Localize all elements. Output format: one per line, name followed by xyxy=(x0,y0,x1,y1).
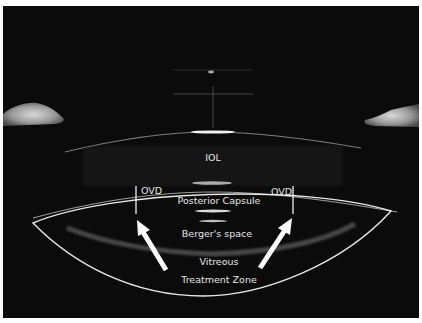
label-ovd-left: OVD xyxy=(141,185,162,196)
oct-scan-svg: IOL OVD OVD Posterior Capsule Berger's s… xyxy=(3,6,419,318)
label-vitreous: Vitreous xyxy=(200,256,239,267)
oct-scan-image: IOL OVD OVD Posterior Capsule Berger's s… xyxy=(3,6,419,318)
iris-left xyxy=(3,103,64,126)
label-ovd-right: OVD xyxy=(271,186,292,197)
posterior-capsule-reflex xyxy=(195,210,231,213)
label-bergers-space: Berger's space xyxy=(182,228,252,239)
top-reflex xyxy=(208,71,214,74)
arrow-right-pointing-up-left xyxy=(260,218,292,268)
label-treatment-zone: Treatment Zone xyxy=(180,274,257,285)
bergers-reflex xyxy=(199,220,227,222)
label-iol: IOL xyxy=(205,152,221,163)
iol-anterior-reflex xyxy=(191,130,235,133)
label-posterior-capsule: Posterior Capsule xyxy=(178,195,261,206)
iris-right xyxy=(364,104,419,127)
